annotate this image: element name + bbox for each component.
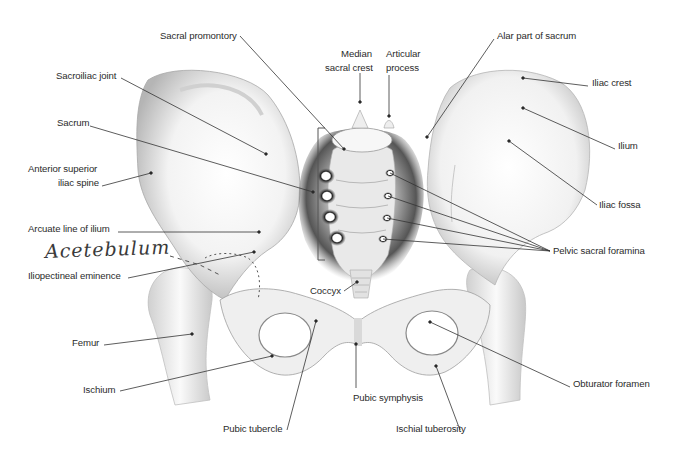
label-pelvic-sacral-foramina: Pelvic sacral foramina xyxy=(553,245,645,257)
leader-dot-femur xyxy=(191,333,194,336)
label-articular-process-2: process xyxy=(386,62,419,74)
label-obturator-foramen: Obturator foramen xyxy=(573,378,650,390)
label-iliac-crest: Iliac crest xyxy=(592,77,631,89)
pelvis-diagram: Sacral promontoryMediansacral crestArtic… xyxy=(0,0,674,455)
femur-left xyxy=(148,268,212,405)
label-iliac-fossa: Iliac fossa xyxy=(599,199,641,211)
leader-dot-pubic-symphysis xyxy=(355,343,358,346)
label-sacrum: Sacrum xyxy=(57,117,89,129)
leader-line-ischial-tuberosity xyxy=(436,366,460,430)
label-coccyx: Coccyx xyxy=(310,285,341,297)
label-ilium: Ilium xyxy=(618,140,638,152)
label-iliopectineal-eminence: Iliopectineal eminence xyxy=(28,270,121,282)
pubic-symphysis-mark xyxy=(354,318,362,346)
leader-dot-anterior-superior-iliac-spine-2 xyxy=(150,172,153,175)
leader-dot-sacroiliac-joint xyxy=(265,153,268,156)
label-ischium: Ischium xyxy=(83,384,115,396)
leader-dot-ilium xyxy=(522,107,525,110)
leader-dot-median-sacral-crest-2 xyxy=(359,101,362,104)
leader-dot-obturator-foramen xyxy=(429,321,432,324)
label-pubic-symphysis: Pubic symphysis xyxy=(353,392,423,404)
label-alar-part-of-sacrum: Alar part of sacrum xyxy=(497,30,576,42)
leader-dot-ischial-tuberosity xyxy=(435,365,438,368)
label-ischial-tuberosity: Ischial tuberosity xyxy=(396,423,466,435)
label-femur: Femur xyxy=(72,337,99,349)
pubis-ischium xyxy=(220,289,490,375)
sacrum xyxy=(299,110,424,298)
leader-dot-pubic-tubercle xyxy=(315,320,318,323)
leader-dot-iliac-fossa xyxy=(508,140,511,143)
label-sacroiliac-joint: Sacroiliac joint xyxy=(56,70,116,82)
label-median-sacral-crest-1: Median xyxy=(341,48,372,60)
obturator-foramen-left xyxy=(259,313,311,357)
leader-dot-iliopectineal-eminence xyxy=(253,251,256,254)
label-sacral-promontory: Sacral promontory xyxy=(160,30,237,42)
label-arcuate-line-of-ilium: Arcuate line of ilium xyxy=(28,223,110,235)
leader-dot-arcuate-line-of-ilium xyxy=(258,231,261,234)
ilium-left xyxy=(137,70,300,300)
label-median-sacral-crest-2: sacral crest xyxy=(325,62,373,74)
label-articular-process-1: Articular xyxy=(386,48,420,60)
leader-dot-articular-process-2 xyxy=(388,115,391,118)
leader-dot-sacrum xyxy=(312,191,315,194)
leader-dot-sacral-promontory xyxy=(343,148,346,151)
label-anterior-superior-iliac-spine-1: Anterior superior xyxy=(28,163,97,175)
handwritten-annotation-acetabulum: Acetebulum xyxy=(45,236,171,262)
leader-dot-ischium xyxy=(271,355,274,358)
label-anterior-superior-iliac-spine-2: iliac spine xyxy=(58,177,99,189)
leader-dot-coccyx xyxy=(356,281,359,284)
leader-dot-iliac-crest xyxy=(522,77,525,80)
obturator-foramen-right xyxy=(406,311,458,355)
label-pubic-tubercle: Pubic tubercle xyxy=(223,423,282,435)
leader-dot-alar-part-of-sacrum xyxy=(426,136,429,139)
